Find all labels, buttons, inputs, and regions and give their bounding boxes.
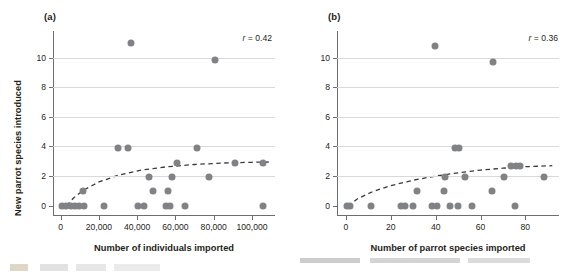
panel-a-data-point: [125, 144, 132, 151]
panel-a-y-tick-label: 2: [41, 171, 46, 181]
panel-a-data-point: [141, 202, 148, 209]
panel-b-x-tick-mark: [391, 216, 392, 220]
panel-a-data-point: [205, 173, 212, 180]
panel-a-data-point: [115, 144, 122, 151]
panel-a: (a) New parrot species introduced 024681…: [0, 0, 284, 258]
panel-a-gridline: [53, 117, 275, 118]
panel-b-gridline: [337, 146, 559, 147]
panel-b-data-point: [441, 173, 448, 180]
panel-a-y-tick-mark: [49, 87, 53, 88]
panel-b-data-point: [501, 173, 508, 180]
panel-a-y-tick-label: 6: [41, 112, 46, 122]
panel-a-data-point: [128, 39, 135, 46]
panel-b-plot-area: 0246810020406080: [337, 31, 559, 216]
panel-a-x-tick-mark: [137, 216, 138, 220]
panel-a-y-axis-line: [53, 31, 54, 216]
panel-a-y-tick-mark: [49, 176, 53, 177]
panel-b-x-tick-mark: [525, 216, 526, 220]
panel-a-y-tick-mark: [49, 206, 53, 207]
panel-a-correlation-equals: =: [245, 33, 255, 43]
panel-a-y-tick-mark: [49, 117, 53, 118]
panel-b-data-point: [488, 187, 495, 194]
panel-b-x-axis-title: Number of parrot species imported: [337, 243, 559, 253]
panel-b-data-point: [456, 144, 463, 151]
panel-a-x-tick-label: 40,000: [124, 222, 150, 232]
panel-b-y-tick-label: 6: [325, 112, 330, 122]
panel-b-y-axis-line: [337, 31, 338, 216]
panel-b-y-tick-label: 0: [325, 201, 330, 211]
panel-a-data-point: [150, 187, 157, 194]
panel-a-y-tick-mark: [49, 146, 53, 147]
panel-a-y-tick-label: 4: [41, 141, 46, 151]
panel-b-data-point: [413, 187, 420, 194]
panel-b: (b) 0246810020406080 Number of parrot sp…: [285, 0, 569, 258]
panel-b-x-tick-mark: [436, 216, 437, 220]
panel-a-data-point: [169, 173, 176, 180]
panel-b-data-point: [512, 202, 519, 209]
panel-a-data-point: [145, 173, 152, 180]
panel-a-gridline: [53, 176, 275, 177]
panel-a-plot-area: 0246810020,00040,00060,00080,000100,000: [53, 31, 275, 216]
panel-a-data-point: [167, 202, 174, 209]
panel-a-y-tick-label: 0: [41, 201, 46, 211]
panel-a-x-tick-label: 80,000: [201, 222, 227, 232]
panel-a-data-point: [100, 202, 107, 209]
panel-a-y-tick-mark: [49, 58, 53, 59]
panel-b-correlation-label: r = 0.36: [529, 33, 558, 43]
panel-b-y-tick-mark: [333, 146, 337, 147]
panel-b-x-tick-label: 20: [386, 222, 396, 232]
panel-b-x-tick-label: 40: [431, 222, 441, 232]
panel-a-data-point: [81, 202, 88, 209]
panel-b-y-tick-mark: [333, 58, 337, 59]
panel-a-data-point: [212, 56, 219, 63]
panel-b-data-point: [489, 59, 496, 66]
panel-a-data-point: [174, 159, 181, 166]
panel-a-y-tick-label: 10: [36, 53, 46, 63]
panel-b-y-tick-label: 2: [325, 171, 330, 181]
panel-a-data-point: [80, 187, 87, 194]
figure-scatter-panels: (a) New parrot species introduced 024681…: [0, 0, 569, 276]
panel-b-data-point: [347, 202, 354, 209]
panel-b-gridline: [337, 117, 559, 118]
panel-b-x-tick-mark: [481, 216, 482, 220]
panel-a-data-point: [194, 144, 201, 151]
panel-b-data-point: [447, 202, 454, 209]
panel-a-x-tick-mark: [99, 216, 100, 220]
panel-b-x-tick-mark: [346, 216, 347, 220]
panel-b-y-tick-label: 4: [325, 141, 330, 151]
panel-a-x-tick-label: 60,000: [162, 222, 188, 232]
panel-b-trendline: [337, 31, 559, 216]
panel-a-data-point: [259, 160, 266, 167]
panel-b-data-point: [367, 202, 374, 209]
panel-a-data-point: [181, 202, 188, 209]
panel-b-gridline: [337, 87, 559, 88]
panel-a-gridline: [53, 87, 275, 88]
panel-b-x-tick-label: 0: [344, 222, 349, 232]
panel-a-gridline: [53, 58, 275, 59]
panel-b-y-tick-mark: [333, 206, 337, 207]
panel-a-x-axis-title: Number of individuals imported: [53, 243, 275, 253]
panel-b-y-tick-label: 8: [325, 82, 330, 92]
panel-b-x-tick-label: 80: [521, 222, 531, 232]
panel-b-data-point: [468, 202, 475, 209]
panel-a-correlation-value: 0.42: [255, 33, 272, 43]
panel-b-y-tick-mark: [333, 87, 337, 88]
panel-a-x-tick-label: 0: [58, 222, 63, 232]
panel-b-y-tick-mark: [333, 117, 337, 118]
panel-b-data-point: [516, 162, 523, 169]
panel-a-x-tick-mark: [175, 216, 176, 220]
panel-a-x-tick-mark: [214, 216, 215, 220]
panel-a-correlation-label: r = 0.42: [243, 33, 272, 43]
panel-b-x-tick-label: 60: [476, 222, 486, 232]
panel-b-data-point: [440, 187, 447, 194]
panel-a-x-tick-mark: [252, 216, 253, 220]
figure-caption-strip: [0, 258, 569, 276]
panel-b-correlation-value: 0.36: [541, 33, 558, 43]
panel-b-data-point: [402, 202, 409, 209]
panel-b-data-point: [431, 42, 438, 49]
caption-cropped-text-upper: [300, 258, 530, 263]
panel-a-data-point: [260, 202, 267, 209]
panel-b-data-point: [541, 173, 548, 180]
panel-a-y-tick-label: 8: [41, 82, 46, 92]
caption-cropped-text-lower: [10, 264, 160, 271]
